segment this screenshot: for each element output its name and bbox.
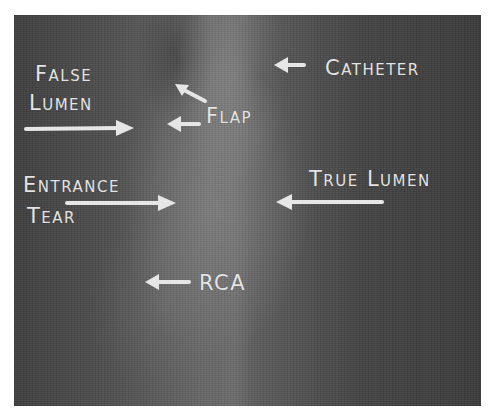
false-lumen-arrow-icon (24, 118, 136, 138)
label-true-lumen: True Lumen (309, 168, 431, 190)
flap-arrow-lower-icon (165, 115, 201, 133)
label-rca: RCA (199, 272, 246, 294)
label-false-lumen-line2: Lumen (29, 92, 93, 114)
label-catheter: Catheter (325, 57, 420, 79)
flap-arrow-upper-icon (172, 82, 208, 104)
true-lumen-arrow-icon (274, 192, 384, 212)
label-false-lumen-line1: False (35, 63, 92, 85)
entrance-tear-arrow-icon (64, 193, 178, 213)
rca-arrow-icon (143, 273, 191, 291)
catheter-arrow-icon (272, 56, 306, 74)
label-flap: Flap (206, 105, 252, 127)
